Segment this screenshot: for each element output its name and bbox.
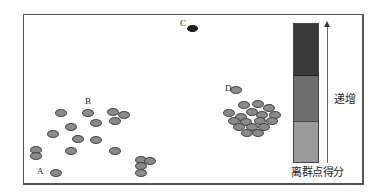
data-point-sparse bbox=[109, 147, 121, 155]
increase-arrow-line bbox=[327, 23, 328, 163]
data-point-sparse bbox=[135, 169, 147, 177]
data-point-sparse bbox=[82, 109, 94, 117]
data-point-sparse bbox=[109, 117, 121, 125]
data-point-dense bbox=[223, 109, 235, 117]
data-point-sparse bbox=[30, 152, 42, 160]
increase-label: 递增 bbox=[334, 90, 356, 106]
data-point-outlier-c bbox=[187, 25, 198, 32]
data-point-sparse bbox=[90, 119, 102, 127]
score-segment-high bbox=[294, 24, 318, 76]
label-d: D bbox=[225, 83, 232, 93]
score-segment-medium bbox=[294, 76, 318, 122]
data-point-sparse bbox=[47, 130, 59, 138]
data-point-sparse bbox=[65, 147, 77, 155]
data-point-sparse bbox=[65, 123, 77, 131]
label-a: A bbox=[37, 166, 44, 176]
data-point-sparse bbox=[50, 169, 62, 177]
arrow-up-icon bbox=[324, 21, 330, 27]
data-point-dense bbox=[252, 129, 264, 137]
outlier-score-bar bbox=[293, 23, 319, 163]
label-c: C bbox=[180, 18, 186, 28]
data-point-sparse bbox=[90, 136, 102, 144]
label-b: B bbox=[85, 96, 91, 106]
data-point-sparse bbox=[55, 109, 67, 117]
outlier-score-label: 离群点得分 bbox=[291, 163, 344, 179]
score-segment-low bbox=[294, 122, 318, 162]
data-point-sparse bbox=[72, 135, 84, 143]
